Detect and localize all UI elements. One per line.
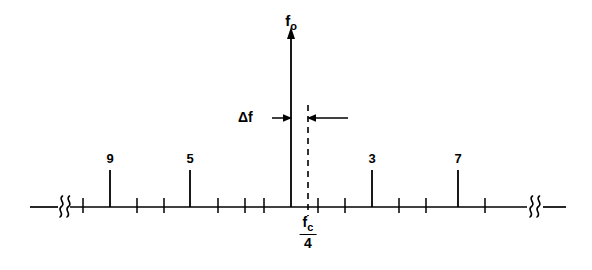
carrier-label-fo: fo [285,13,297,32]
spectral-label-5: 5 [186,152,193,165]
delta-f-arrow-left [272,114,292,122]
carrier-label-subscript: o [290,20,297,32]
fc-over-4-numerator: fc [300,215,317,233]
fc-over-4-label: fc 4 [300,215,317,251]
spectrum-plot [0,0,592,270]
spectral-line-group [110,170,458,207]
delta-f-label: Δf [238,110,253,124]
axis-tick-group [83,198,485,213]
fc-numerator-subscript: c [307,221,313,233]
spectral-label-9: 9 [106,152,113,165]
axis-break-right-icon [530,196,540,217]
spectral-label-3: 3 [368,152,375,165]
axis-break-left-icon [60,196,70,217]
delta-f-arrow-right [307,114,348,122]
spectrum-figure: fo Δf 9 5 3 7 fc 4 [0,0,592,270]
spectral-label-7: 7 [454,152,461,165]
fc-over-4-denominator: 4 [300,236,317,251]
